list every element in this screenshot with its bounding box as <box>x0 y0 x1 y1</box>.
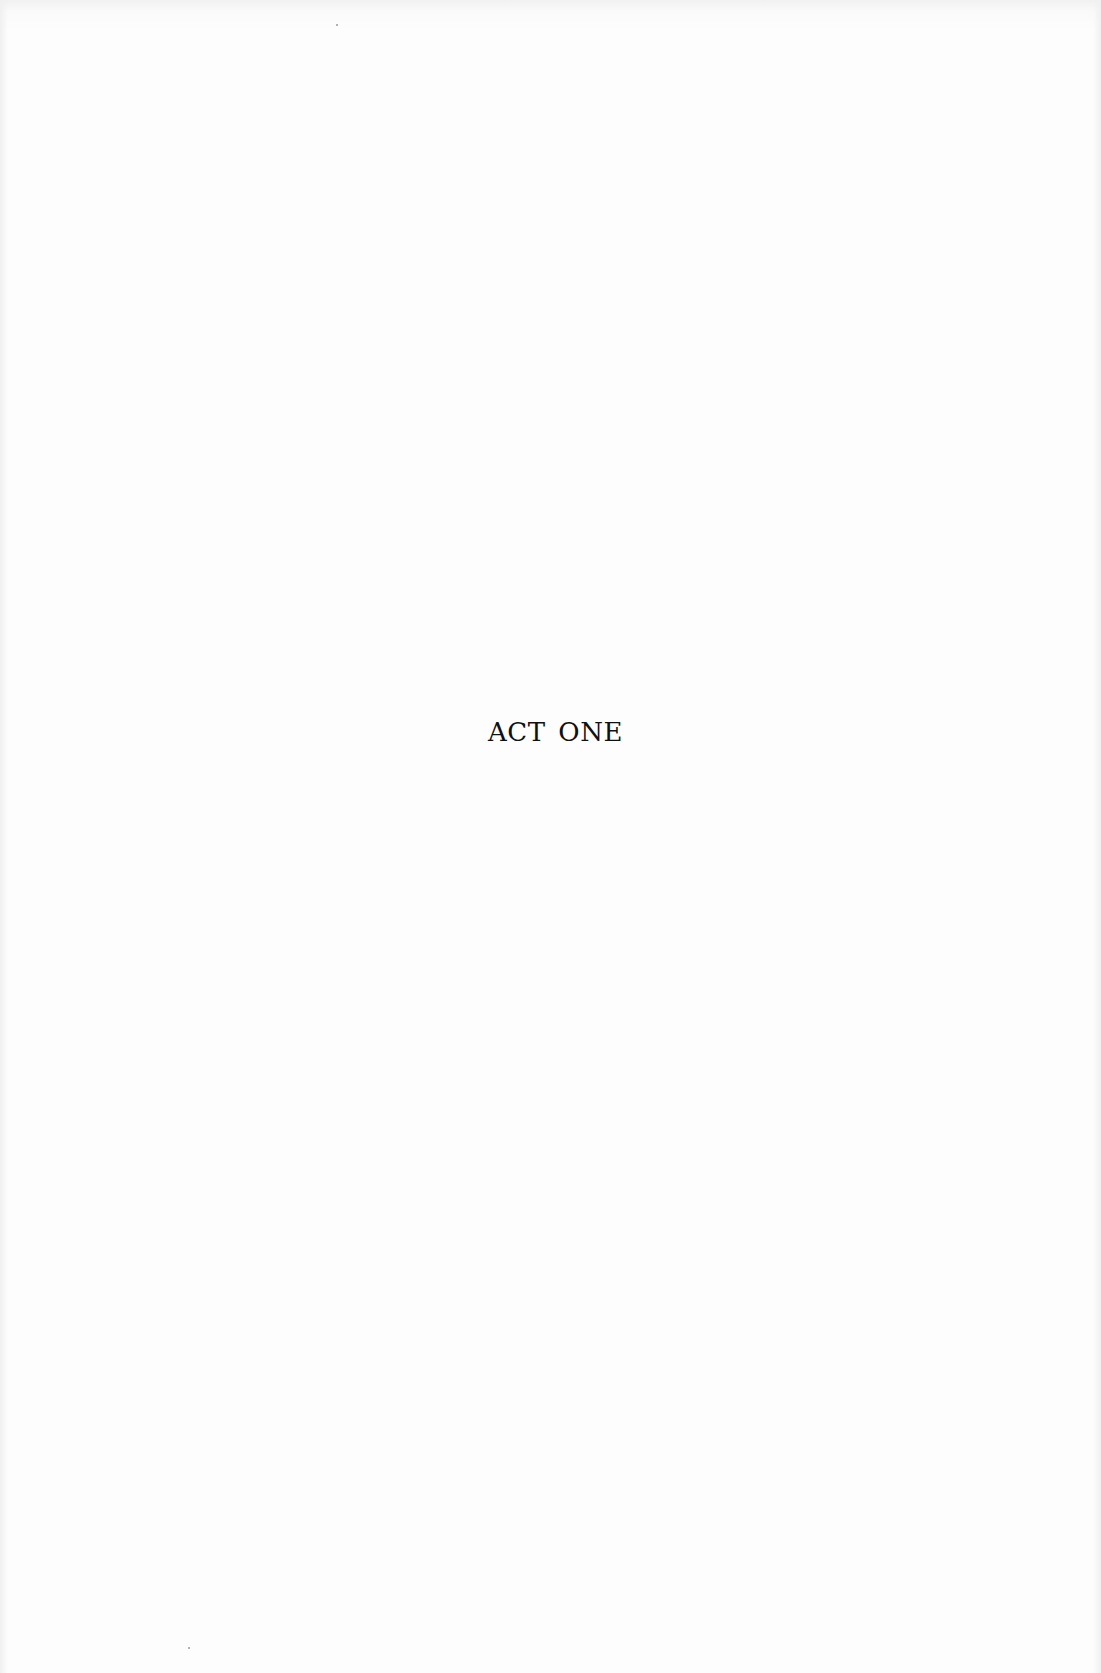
book-page: ACT ONE <box>0 0 1101 1673</box>
act-heading: ACT ONE <box>0 717 1101 747</box>
scan-speck <box>336 24 338 26</box>
scan-speck <box>188 1647 190 1649</box>
